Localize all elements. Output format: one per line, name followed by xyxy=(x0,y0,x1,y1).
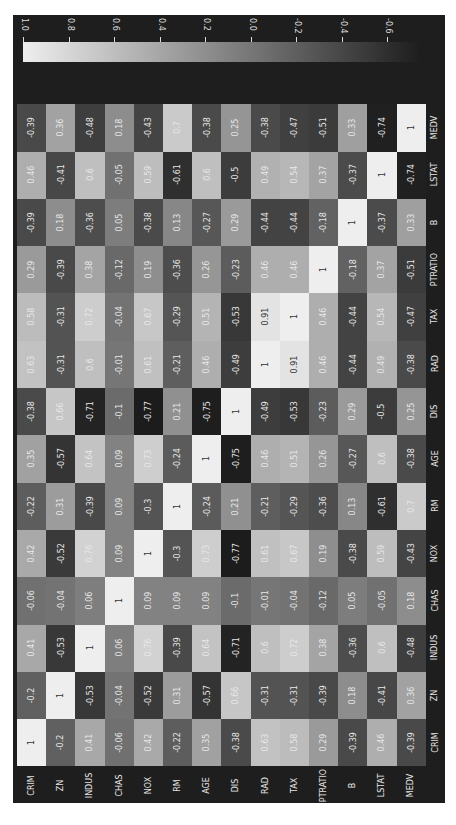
cell-value: -0.12 xyxy=(115,259,124,280)
cell-value: 0.58 xyxy=(290,734,299,752)
heatmap-cell: 0.46 xyxy=(309,293,339,341)
cell-value: -0.38 xyxy=(144,212,153,233)
heatmap-cell: -0.53 xyxy=(221,293,251,341)
heatmap-cell: -0.38 xyxy=(17,388,47,436)
cell-value: 0.46 xyxy=(378,734,387,752)
cell-value: -0.27 xyxy=(203,212,212,233)
column-label-text: LSTAT xyxy=(431,163,440,187)
row-label: PTRATIO xyxy=(309,770,338,800)
row-label: RAD xyxy=(251,770,280,800)
column-label-text: INDUS xyxy=(431,635,440,660)
colorbar-tick: 0.8 xyxy=(69,18,70,42)
heatmap-cell: -0.77 xyxy=(134,388,164,436)
heatmap-cell: -0.21 xyxy=(163,340,193,388)
heatmap-cell: 0.38 xyxy=(75,246,105,294)
row-label: MEDV xyxy=(397,770,426,800)
row-label-text: CHAS xyxy=(115,774,124,796)
cell-value: -0.01 xyxy=(261,590,270,611)
cell-value: -0.77 xyxy=(144,401,153,422)
colorbar-tick: 1.0 xyxy=(23,18,24,42)
heatmap-cell: 0.09 xyxy=(163,577,193,625)
heatmap-cell: -0.3 xyxy=(134,482,164,530)
cell-value: -0.57 xyxy=(57,448,66,469)
heatmap-cell: -0.74 xyxy=(367,104,397,152)
cell-value: 0.41 xyxy=(27,639,36,657)
cell-value: 0.46 xyxy=(319,355,328,373)
cell-value: 0.21 xyxy=(232,497,241,515)
cell-value: -0.39 xyxy=(319,685,328,706)
heatmap-cell: 0.18 xyxy=(338,671,368,719)
cell-value: 0.09 xyxy=(173,592,182,610)
column-label: B xyxy=(426,198,444,245)
heatmap-cell: -0.39 xyxy=(17,104,47,152)
cell-value: -0.22 xyxy=(27,496,36,517)
heatmap-cell: 0.26 xyxy=(309,435,339,483)
cell-value: -0.38 xyxy=(407,354,416,375)
heatmap-cell: -0.23 xyxy=(221,246,251,294)
cell-value: -0.75 xyxy=(232,448,241,469)
heatmap-cell: -0.38 xyxy=(397,435,427,483)
cell-value: 0.73 xyxy=(144,450,153,468)
cell-value: -0.38 xyxy=(232,732,241,753)
cell-value: 0.31 xyxy=(57,497,66,515)
heatmap-cell: 0.42 xyxy=(17,530,47,578)
column-label: PTRATIO xyxy=(426,246,444,293)
cell-value: 0.25 xyxy=(407,403,416,421)
cell-value: 0.38 xyxy=(86,261,95,279)
heatmap-cell: 0.7 xyxy=(163,104,193,152)
heatmap-cell: -0.39 xyxy=(75,482,105,530)
cell-value: 0.46 xyxy=(290,261,299,279)
heatmap-cell: -0.36 xyxy=(163,246,193,294)
cell-value: -0.37 xyxy=(378,212,387,233)
cell-value: 0.46 xyxy=(27,166,36,184)
cell-value: -0.04 xyxy=(115,685,124,706)
cell-value: -0.52 xyxy=(57,543,66,564)
row-label-text: PTRATIO xyxy=(319,768,328,801)
tick-label: -0.4 xyxy=(339,18,348,34)
cell-value: 0.76 xyxy=(144,639,153,657)
heatmap-cell: -0.39 xyxy=(338,719,368,767)
cell-value: 0.09 xyxy=(144,592,153,610)
column-label-text: DIS xyxy=(430,404,439,418)
heatmap-cell: -0.12 xyxy=(309,577,339,625)
heatmap-cell: -0.41 xyxy=(367,671,397,719)
cell-value: 0.41 xyxy=(86,734,95,752)
heatmap-cell: 0.91 xyxy=(280,340,310,388)
heatmap-cell: 0.67 xyxy=(134,293,164,341)
heatmap-cell: 0.13 xyxy=(163,198,193,246)
heatmap-cell: -0.5 xyxy=(367,388,397,436)
heatmap-cell: -0.53 xyxy=(280,388,310,436)
heatmap-cell: -0.01 xyxy=(105,340,135,388)
heatmap-cell: -0.51 xyxy=(397,246,427,294)
column-label: CHAS xyxy=(426,577,444,624)
tick-mark xyxy=(342,37,343,42)
cell-value: -0.21 xyxy=(261,496,270,517)
cell-value: 0.26 xyxy=(319,450,328,468)
heatmap-cell: 0.31 xyxy=(163,671,193,719)
cell-value: 0.35 xyxy=(27,450,36,468)
heatmap-cell: 0.19 xyxy=(309,530,339,578)
heatmap-cell: 0.09 xyxy=(105,435,135,483)
heatmap-cell: 0.46 xyxy=(280,246,310,294)
heatmap-cell: -0.22 xyxy=(163,719,193,767)
heatmap-cell: -0.24 xyxy=(192,482,222,530)
row-label-text: CRIM xyxy=(27,775,36,795)
tick-mark xyxy=(387,37,388,42)
heatmap-cell: 0.46 xyxy=(251,435,281,483)
heatmap-cell: -0.77 xyxy=(221,530,251,578)
column-label-text: ZN xyxy=(431,689,440,700)
heatmap-cell: 0.63 xyxy=(251,719,281,767)
tick-label: 0.8 xyxy=(66,18,75,31)
tick-label: 0.2 xyxy=(202,18,211,31)
heatmap-cell: -0.23 xyxy=(309,388,339,436)
heatmap-cell: -0.37 xyxy=(367,198,397,246)
tick-mark xyxy=(23,37,24,42)
tick-label: 0.4 xyxy=(157,18,166,31)
cell-value: -0.47 xyxy=(407,307,416,328)
heatmap-cell: 0.18 xyxy=(46,198,76,246)
colorbar xyxy=(23,42,423,62)
cell-value: 1 xyxy=(144,551,153,556)
heatmap-cell: 0.37 xyxy=(367,246,397,294)
cell-value: -0.38 xyxy=(27,401,36,422)
cell-value: -0.48 xyxy=(407,638,416,659)
